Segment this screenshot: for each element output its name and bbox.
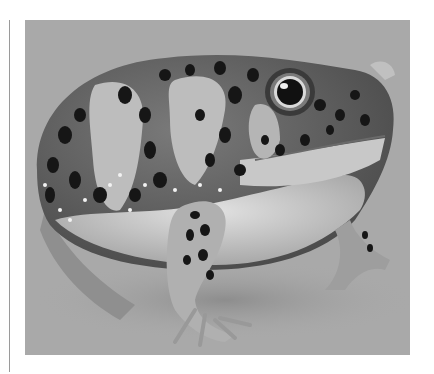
frog-drawing bbox=[25, 20, 410, 355]
frog-illustration: Grayscale illustration of a round, spott… bbox=[25, 20, 410, 355]
frog-eye bbox=[265, 68, 315, 116]
left-margin-rule bbox=[9, 20, 10, 372]
